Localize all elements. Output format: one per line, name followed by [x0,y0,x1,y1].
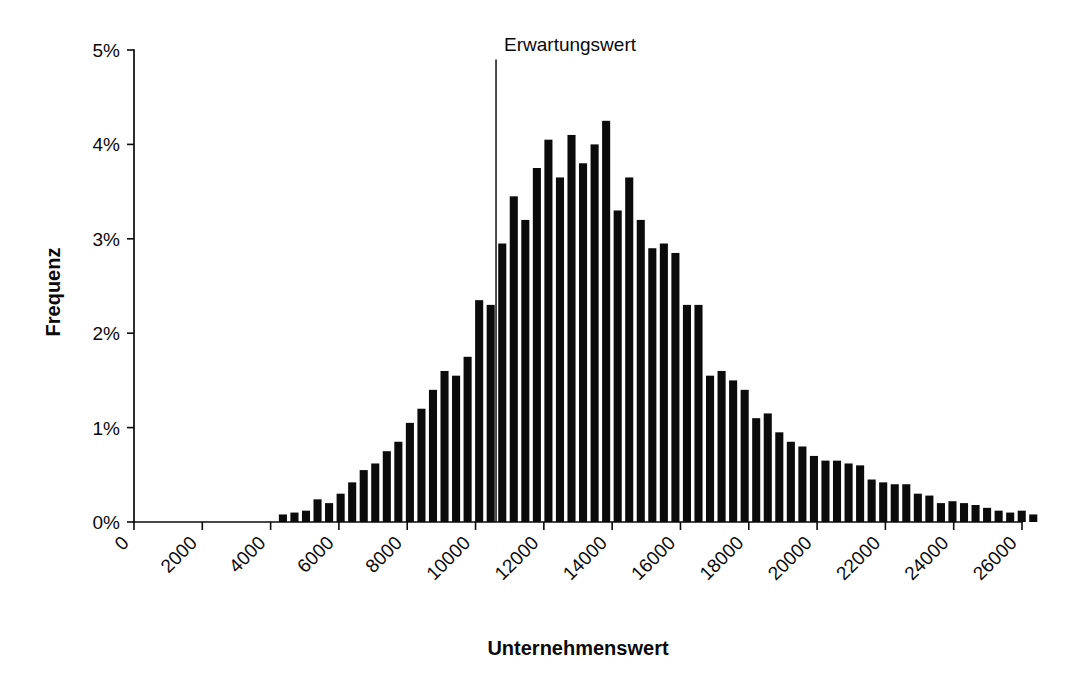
x-tick-label: 12000 [490,532,542,584]
histogram-bar [995,511,1003,522]
histogram-bar [1018,511,1026,522]
histogram-bar [521,220,529,522]
histogram-bar [856,465,864,522]
y-tick-label: 1% [93,418,121,439]
histogram-chart: Erwartungswert 0%1%2%3%4%5% 020004000600… [0,0,1079,697]
histogram-bar [579,163,587,522]
y-axis-ticks: 0%1%2%3%4%5% [93,40,134,533]
histogram-bar [752,418,760,522]
x-tick-label: 16000 [627,532,679,584]
histogram-bar [671,253,679,522]
histogram-bar [798,446,806,522]
y-tick-label: 4% [93,134,121,155]
histogram-bar [487,305,495,522]
histogram-bar [1029,514,1037,522]
histogram-bar [314,499,322,522]
histogram-bar [475,300,483,522]
histogram-bar [637,220,645,522]
histogram-bar [1006,513,1014,522]
histogram-bar [660,244,668,522]
histogram-bar [833,461,841,522]
histogram-bar [325,503,333,522]
histogram-bar [302,511,310,522]
chart-figure: Erwartungswert 0%1%2%3%4%5% 020004000600… [0,0,1079,697]
histogram-bar [544,140,552,522]
y-tick-label: 2% [93,323,121,344]
x-tick-label: 22000 [832,532,884,584]
x-tick-label: 14000 [559,532,611,584]
x-axis-ticks: 0200040006000800010000120001400016000180… [110,522,1022,584]
histogram-bar [694,305,702,522]
y-axis-title: Frequenz [42,248,64,337]
x-tick-label: 2000 [156,532,201,577]
histogram-bar [452,376,460,522]
histogram-bar [764,413,772,522]
histogram-bar [948,501,956,522]
histogram-bar [510,196,518,522]
histogram-bar [417,409,425,522]
histogram-bar [348,482,356,522]
histogram-bar [429,390,437,522]
histogram-bar [648,248,656,522]
x-tick-label: 8000 [361,532,406,577]
histogram-bar [533,168,541,522]
x-tick-label: 4000 [225,532,270,577]
histogram-bar [729,380,737,522]
histogram-bar [821,461,829,522]
histogram-bar [706,376,714,522]
histogram-bar [718,371,726,522]
histogram-bar [625,177,633,522]
histogram-bar [279,514,287,522]
histogram-bar [383,451,391,522]
histogram-bar [925,496,933,522]
histogram-bar [845,463,853,522]
x-tick-label: 0 [110,532,132,554]
histogram-bar [960,503,968,522]
expected-value-marker-label: Erwartungswert [504,34,637,55]
histogram-bar [464,357,472,522]
histogram-bar [498,244,506,522]
histogram-bar [567,135,575,522]
histogram-bar [440,371,448,522]
histogram-bar [591,144,599,522]
y-tick-label: 3% [93,229,121,250]
histogram-bar [891,484,899,522]
x-tick-label: 26000 [969,532,1021,584]
x-axis-title: Unternehmenswert [487,637,668,659]
histogram-bar [972,505,980,522]
x-tick-label: 6000 [293,532,338,577]
x-tick-label: 18000 [695,532,747,584]
x-tick-label: 20000 [764,532,816,584]
histogram-bar [683,305,691,522]
histogram-bar [614,210,622,522]
histogram-bar [371,463,379,522]
histogram-bar [406,423,414,522]
histogram-bar [787,442,795,522]
histogram-bar [937,503,945,522]
histogram-bar [337,494,345,522]
histogram-bar [868,480,876,522]
histogram-bars [279,121,1037,522]
histogram-bar [879,482,887,522]
x-tick-label: 24000 [900,532,952,584]
histogram-bar [914,494,922,522]
histogram-bar [902,484,910,522]
y-tick-label: 5% [93,40,121,61]
histogram-bar [360,470,368,522]
histogram-bar [556,177,564,522]
histogram-bar [602,121,610,522]
x-tick-label: 10000 [422,532,474,584]
histogram-bar [983,508,991,522]
histogram-bar [775,432,783,522]
histogram-bar [810,456,818,522]
y-tick-label: 0% [93,512,121,533]
histogram-bar [741,390,749,522]
histogram-bar [290,513,298,522]
histogram-bar [394,442,402,522]
